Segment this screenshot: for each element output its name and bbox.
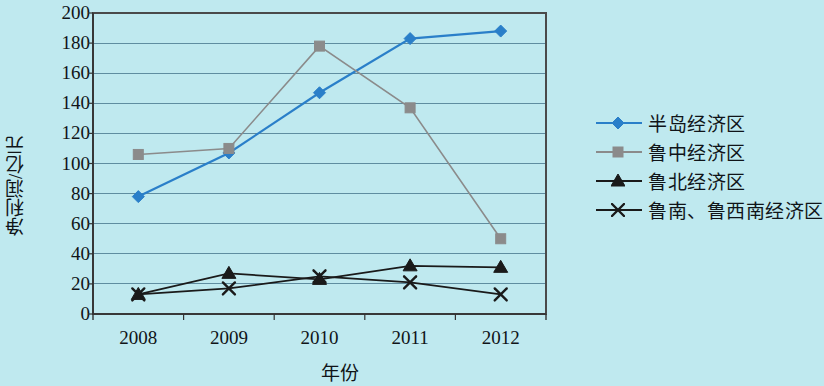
legend-label: 鲁北经济区 (642, 167, 746, 194)
data-point-marker (496, 234, 506, 244)
x-axis-tick-label: 2008 (93, 327, 183, 349)
legend-item[interactable]: 鲁南、鲁西南经济区 (596, 195, 812, 224)
x-axis-title: 年份 (280, 358, 400, 385)
series-line (138, 31, 500, 197)
x-axis-tick-label: 2011 (365, 327, 455, 349)
data-series (133, 41, 505, 244)
legend-marker (596, 114, 642, 132)
legend-item[interactable]: 半岛经济区 (596, 108, 812, 137)
data-series (132, 25, 506, 203)
legend-marker (596, 201, 642, 219)
legend-label: 半岛经济区 (642, 109, 746, 136)
data-point-marker (222, 266, 236, 278)
legend-label: 鲁南、鲁西南经济区 (642, 196, 824, 223)
data-point-marker (494, 260, 508, 272)
data-point-marker (613, 147, 623, 157)
data-point-marker (224, 143, 234, 153)
data-point-marker (403, 259, 417, 271)
diamond-icon (611, 116, 625, 130)
data-point-marker (612, 117, 624, 129)
legend-item[interactable]: 鲁北经济区 (596, 166, 812, 195)
data-series (132, 270, 506, 300)
data-point-marker (612, 204, 624, 216)
data-point-marker (405, 103, 415, 113)
legend-marker (596, 143, 642, 161)
series-line (138, 46, 500, 239)
data-point-marker (495, 25, 507, 37)
data-point-marker (132, 191, 144, 203)
data-point-marker (133, 149, 143, 159)
data-point-marker (314, 87, 326, 99)
triangle-icon (611, 174, 625, 188)
legend-marker (596, 172, 642, 190)
cross-icon (611, 203, 625, 217)
x-axis-tick-label: 2009 (184, 327, 274, 349)
legend-item[interactable]: 鲁中经济区 (596, 137, 812, 166)
chart-legend: 半岛经济区鲁中经济区鲁北经济区鲁南、鲁西南经济区 (596, 108, 812, 224)
data-point-marker (315, 41, 325, 51)
data-series (131, 259, 507, 300)
x-axis-tick-label: 2010 (275, 327, 365, 349)
square-icon (611, 145, 625, 159)
x-axis-tick-label: 2012 (456, 327, 546, 349)
legend-label: 鲁中经济区 (642, 138, 746, 165)
data-point-marker (611, 174, 625, 186)
